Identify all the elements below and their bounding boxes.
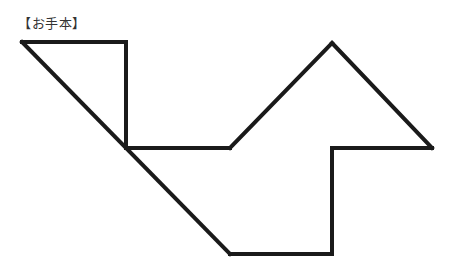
tangram-figure [0, 0, 456, 267]
outline-segment [332, 43, 432, 148]
outline-segment [230, 43, 332, 148]
